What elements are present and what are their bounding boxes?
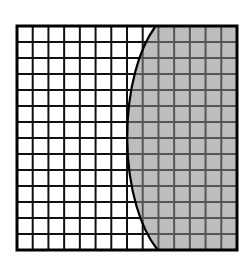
grid-diagram: [0, 0, 252, 267]
shaded-grid-figure: 14 by 14 square grid with a curved bound…: [0, 0, 252, 267]
